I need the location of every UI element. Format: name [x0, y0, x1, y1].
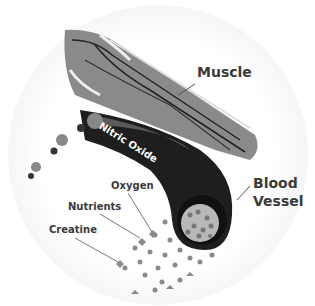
blood-vessel-label-line2: Vessel [253, 192, 304, 210]
oxygen-label: Oxygen [111, 180, 154, 191]
oxygen-pointer-line [128, 193, 152, 232]
diagram-illustration [0, 0, 315, 306]
blood-vessel-label-line1: Blood [253, 174, 304, 192]
nutrients-pointer-line [100, 214, 140, 238]
blood-vessel-label: Blood Vessel [253, 174, 304, 210]
creatine-pointer-line [75, 238, 118, 262]
creatine-label: Creatine [49, 224, 97, 235]
muscle-label: Muscle [197, 64, 252, 80]
nitric-oxide-molecules [28, 113, 103, 179]
nutrients-label: Nutrients [68, 201, 121, 212]
blood-vessel-pointer-line [237, 186, 250, 200]
